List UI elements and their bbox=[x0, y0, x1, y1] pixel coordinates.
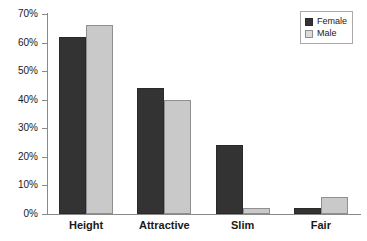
x-axis-line bbox=[47, 214, 361, 215]
bar-slim-female bbox=[216, 145, 243, 214]
y-tick-label: 0% bbox=[24, 209, 38, 219]
x-axis-label-fair: Fair bbox=[271, 219, 367, 231]
female-swatch-icon bbox=[305, 18, 313, 26]
y-tick-label: 60% bbox=[18, 38, 38, 48]
y-tick-label: 20% bbox=[18, 152, 38, 162]
bar-fair-male bbox=[321, 197, 348, 214]
legend-item-female: Female bbox=[305, 16, 347, 27]
bar-fair-female bbox=[294, 208, 321, 214]
legend-label-female: Female bbox=[317, 17, 347, 26]
legend: Female Male bbox=[300, 11, 353, 44]
y-tick-label: 10% bbox=[18, 180, 38, 190]
legend-label-male: Male bbox=[317, 29, 337, 38]
y-tick-label: 70% bbox=[18, 9, 38, 19]
male-swatch-icon bbox=[305, 30, 313, 38]
bar-chart: 0%10%20%30%40%50%60%70% HeightAttractive… bbox=[0, 0, 367, 241]
bar-height-female bbox=[59, 37, 86, 214]
plot-area bbox=[47, 14, 360, 214]
y-tick-mark bbox=[42, 214, 47, 215]
y-tick-label: 30% bbox=[18, 123, 38, 133]
bar-attractive-female bbox=[137, 88, 164, 214]
y-tick-label: 40% bbox=[18, 95, 38, 105]
bar-height-male bbox=[86, 25, 113, 214]
bar-slim-male bbox=[243, 208, 270, 214]
legend-item-male: Male bbox=[305, 28, 347, 39]
bar-attractive-male bbox=[164, 100, 191, 214]
y-tick-label: 50% bbox=[18, 66, 38, 76]
